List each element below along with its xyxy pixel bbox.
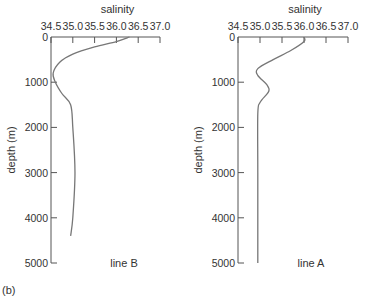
x-tick-label: 36.5 [128,20,149,32]
y-tick-label: 3000 [25,167,49,179]
x-tick-label: 35.5 [272,20,293,32]
y-tick-label: 4000 [212,212,236,224]
y-tick-label: 2000 [25,121,49,133]
x-tick-label: 35.0 [250,20,271,32]
y-tick-label: 2000 [212,121,236,133]
y-tick-label: 5000 [25,257,49,269]
chart-line-a: 34.535.035.536.036.537.00100020003000400… [192,3,358,269]
x-tick-label: 35.5 [84,20,105,32]
x-tick-label: 36.0 [294,20,315,32]
y-axis-label: depth (m) [192,126,204,173]
x-tick-label: 37.0 [150,20,171,32]
chart-line-b: 34.535.035.536.036.537.00100020003000400… [5,3,170,269]
y-tick-label: 1000 [25,76,49,88]
line-title: line A [298,257,326,269]
y-tick-label: 5000 [212,257,236,269]
salinity-profile-curve [53,37,129,236]
y-tick-label: 0 [42,31,48,43]
x-axis-label: salinity [101,3,135,15]
line-title: line B [110,257,138,269]
y-axis-label: depth (m) [5,126,17,173]
x-axis-label: salinity [288,3,322,15]
figure-label: (b) [2,284,15,296]
salinity-figure: 34.535.035.536.036.537.00100020003000400… [0,0,366,298]
y-tick-label: 1000 [212,76,236,88]
salinity-profile-curve [256,37,305,263]
y-tick-label: 4000 [25,212,49,224]
x-tick-label: 37.0 [338,20,359,32]
x-tick-label: 36.0 [106,20,127,32]
x-tick-label: 36.5 [316,20,337,32]
y-tick-label: 0 [229,31,235,43]
y-tick-label: 3000 [212,167,236,179]
x-tick-label: 35.0 [63,20,84,32]
